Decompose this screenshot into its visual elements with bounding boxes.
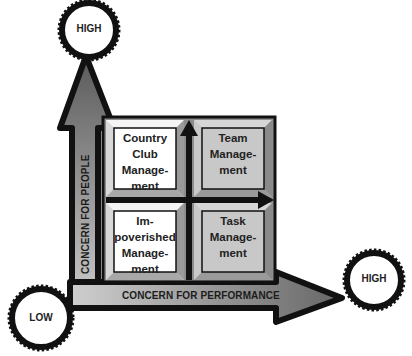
quadrant-label: Task Manage- ment xyxy=(210,213,257,261)
high-performance-label: HIGH xyxy=(344,273,404,284)
people-axis-label: CONCERN FOR PEOPLE xyxy=(80,154,91,274)
quadrant-country-club-text: Country Club Manage- ment xyxy=(114,130,176,190)
performance-axis-label: CONCERN FOR PERFORMANCE xyxy=(122,290,280,301)
quadrant-impoverished-text: Im- poverished Manage- ment xyxy=(114,213,176,273)
quadrant-team-text: Team Manage- ment xyxy=(202,130,264,190)
quadrant-task-text: Task Manage- ment xyxy=(202,213,264,273)
high-people-label: HIGH xyxy=(59,23,119,34)
quadrant-label: Country Club Manage- ment xyxy=(122,130,169,194)
quadrant-label: Team Manage- ment xyxy=(210,130,257,178)
quadrant-label: Im- poverished Manage- ment xyxy=(114,213,175,277)
low-origin-label: LOW xyxy=(11,312,71,323)
